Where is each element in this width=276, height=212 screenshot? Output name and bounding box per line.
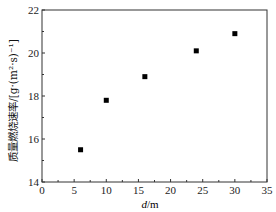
data-point [78, 147, 83, 152]
y-tick-label: 16 [28, 133, 40, 145]
x-tick-label: 15 [133, 184, 145, 196]
y-tick-label: 20 [28, 47, 40, 59]
scatter-chart: 05101520253035 1416182022 d/m [0, 0, 276, 212]
data-point [104, 98, 109, 103]
x-axis-label: d/m [141, 198, 159, 210]
y-axis-ticks: 1416182022 [28, 4, 45, 188]
data-point [232, 31, 237, 36]
y-tick-label: 22 [28, 4, 39, 16]
data-point [142, 74, 147, 79]
y-tick-label: 18 [28, 90, 40, 102]
x-tick-label: 5 [71, 184, 77, 196]
data-points [78, 31, 237, 152]
x-tick-label: 30 [229, 184, 241, 196]
data-point [194, 48, 199, 53]
x-tick-label: 10 [101, 184, 113, 196]
x-tick-label: 25 [197, 184, 209, 196]
x-tick-label: 35 [262, 184, 274, 196]
y-tick-label: 14 [28, 176, 40, 188]
x-tick-label: 0 [39, 184, 45, 196]
x-tick-label: 20 [165, 184, 177, 196]
